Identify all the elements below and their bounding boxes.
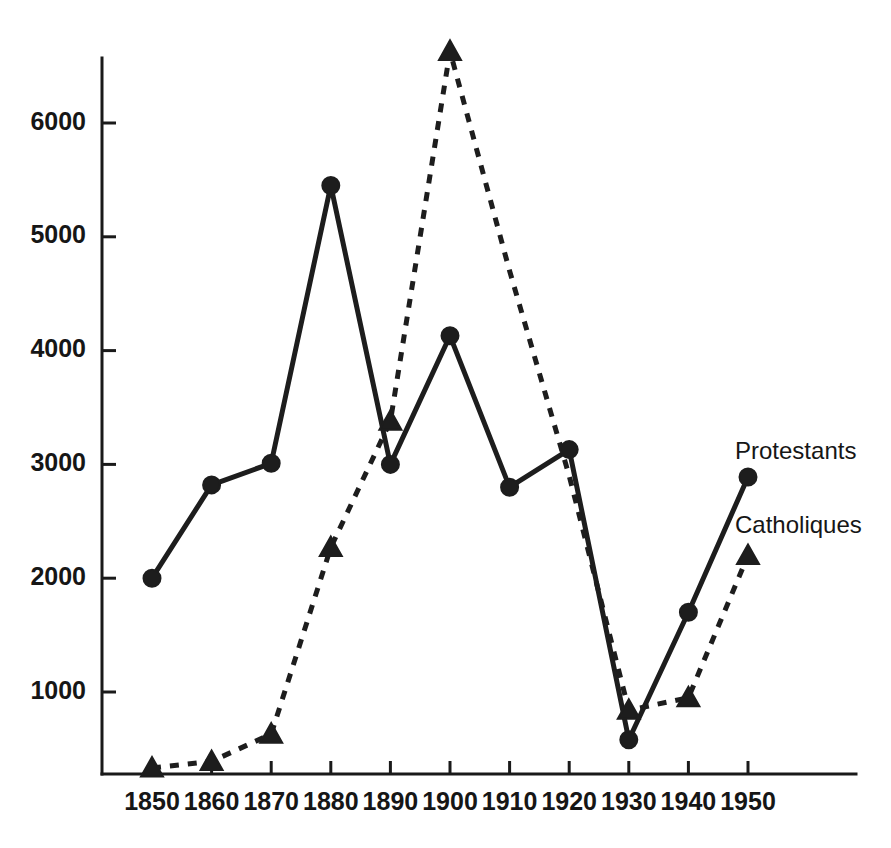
data-point-marker <box>740 468 757 485</box>
data-point-marker <box>561 441 578 458</box>
x-axis-tick-labels: 1850186018701880189019001910192019301940… <box>124 787 776 815</box>
y-axis-tick-label: 4000 <box>30 334 86 362</box>
series-label-protestants: Protestants <box>735 437 856 464</box>
data-point-marker <box>382 456 399 473</box>
x-axis-tick-label: 1870 <box>243 787 299 815</box>
x-axis-tick-label: 1860 <box>184 787 240 815</box>
data-point-marker <box>680 604 697 621</box>
chart-canvas: 100020003000400050006000 185018601870188… <box>0 0 891 848</box>
x-axis-tick-label: 1900 <box>422 787 478 815</box>
x-axis-tick-label: 1950 <box>720 787 776 815</box>
data-point-marker <box>203 476 220 493</box>
x-axis-tick-label: 1910 <box>482 787 538 815</box>
data-point-marker <box>501 479 518 496</box>
x-axis-tick-label: 1890 <box>363 787 419 815</box>
data-point-marker <box>442 327 459 344</box>
line-chart: 100020003000400050006000 185018601870188… <box>0 0 891 848</box>
data-point-marker <box>144 570 161 587</box>
y-axis-tick-label: 6000 <box>30 107 86 135</box>
y-axis-tick-label: 3000 <box>30 448 86 476</box>
data-point-marker <box>322 177 339 194</box>
y-axis-tick-label: 1000 <box>30 676 86 704</box>
y-axis-tick-label: 2000 <box>30 562 86 590</box>
x-axis-tick-label: 1940 <box>661 787 717 815</box>
series-label-catholiques: Catholiques <box>735 511 862 538</box>
data-point-marker <box>263 455 280 472</box>
x-axis-tick-label: 1930 <box>601 787 657 815</box>
x-axis-tick-label: 1880 <box>303 787 359 815</box>
x-axis-tick-label: 1850 <box>124 787 180 815</box>
plot-background <box>0 0 891 848</box>
x-axis-tick-label: 1920 <box>541 787 597 815</box>
y-axis-tick-label: 5000 <box>30 220 86 248</box>
data-point-marker <box>620 731 637 748</box>
